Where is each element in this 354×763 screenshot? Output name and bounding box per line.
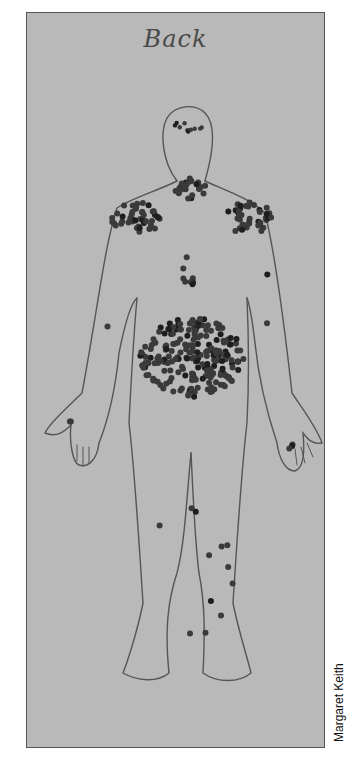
pain-dot	[234, 336, 240, 342]
pain-dot	[213, 320, 219, 326]
pain-dot	[184, 355, 190, 361]
pain-dot	[139, 363, 145, 369]
pain-dot	[179, 386, 185, 392]
pain-dot	[208, 345, 214, 351]
pain-dot	[258, 228, 264, 234]
pain-dot	[218, 372, 224, 378]
pain-dot	[151, 336, 157, 342]
pain-dot	[203, 630, 209, 636]
pain-dot	[204, 368, 210, 374]
head-outline	[163, 107, 213, 181]
pain-dot	[228, 342, 234, 348]
pain-dot	[257, 220, 263, 226]
pain-dot	[187, 350, 193, 356]
pain-dot	[192, 328, 198, 334]
pain-dot	[67, 419, 73, 425]
pain-dot	[205, 387, 211, 393]
pain-dot	[118, 221, 124, 227]
pain-dot	[188, 386, 194, 392]
pain-dot	[142, 344, 148, 350]
pain-dot	[185, 392, 191, 398]
pain-dot	[201, 191, 207, 197]
pain-dot	[225, 209, 231, 215]
pain-dot	[195, 385, 201, 391]
pain-dot	[236, 208, 242, 214]
pain-dot	[164, 346, 170, 352]
pain-dot	[221, 339, 227, 345]
pain-dot	[140, 200, 146, 206]
pain-dot	[219, 325, 225, 331]
pain-dot	[170, 388, 176, 394]
pain-dot	[143, 218, 149, 224]
pain-dot	[224, 542, 230, 548]
pain-dot	[177, 327, 183, 333]
pain-dot	[230, 581, 236, 587]
pain-dot	[148, 346, 154, 352]
pain-dot	[225, 564, 231, 570]
pain-dot	[189, 192, 195, 198]
pain-dot	[167, 378, 173, 384]
pain-dot	[202, 183, 208, 189]
pain-dot	[247, 200, 253, 206]
pain-dot	[200, 376, 206, 382]
pain-dot	[181, 186, 187, 192]
pain-dot	[208, 598, 214, 604]
pain-dot	[182, 121, 186, 125]
pain-dot	[230, 365, 236, 371]
pain-dot	[194, 181, 200, 187]
pain-dot	[191, 394, 197, 400]
pain-dot	[206, 380, 212, 386]
pain-dot	[179, 364, 185, 370]
pain-dot	[194, 349, 200, 355]
pain-dot	[178, 350, 184, 356]
pain-dot	[175, 369, 181, 375]
pain-dot	[180, 266, 186, 272]
pain-dot	[193, 509, 199, 515]
pain-dot	[158, 358, 164, 364]
pain-dot	[264, 320, 270, 326]
body-map-photo: Back	[26, 12, 325, 748]
pain-dot	[177, 321, 183, 327]
pain-dot	[194, 358, 200, 364]
pain-dot	[229, 378, 235, 384]
pain-dot	[218, 331, 224, 337]
pain-dot	[228, 335, 234, 341]
pain-dot	[193, 127, 197, 131]
pain-dot	[206, 552, 212, 558]
pain-dot	[180, 275, 186, 281]
pain-dot	[219, 543, 225, 549]
pain-dot	[114, 211, 120, 217]
pain-dot	[184, 333, 190, 339]
photo-credit: Margaret Keith	[332, 663, 346, 742]
pain-dot	[152, 360, 158, 366]
pain-dot	[286, 445, 292, 451]
pain-dot	[208, 328, 214, 334]
pain-dot	[186, 179, 192, 185]
pain-dot	[157, 382, 163, 388]
pain-dot	[138, 349, 144, 355]
pain-dot	[187, 321, 193, 327]
pain-dot	[237, 348, 243, 354]
pain-dot	[189, 128, 193, 132]
pain-dot	[184, 254, 190, 260]
pain-dot	[186, 327, 192, 333]
pain-dot	[238, 203, 244, 209]
pain-dot	[156, 329, 162, 335]
pain-dot	[246, 221, 252, 227]
pain-dot	[121, 202, 127, 208]
pain-dot	[220, 366, 226, 372]
pain-dot	[195, 341, 201, 347]
pain-dot	[113, 223, 119, 229]
pain-dot	[190, 343, 196, 349]
pain-dot	[172, 356, 178, 362]
pain-dot	[189, 370, 195, 376]
pain-dot	[232, 228, 238, 234]
pain-dot	[264, 272, 270, 278]
pain-dot	[173, 188, 179, 194]
pain-dot	[174, 121, 178, 125]
pain-dot	[166, 353, 172, 359]
pain-dot	[161, 368, 167, 374]
pain-dot	[224, 352, 230, 358]
pain-dot	[219, 358, 225, 364]
pain-dot	[235, 359, 241, 365]
